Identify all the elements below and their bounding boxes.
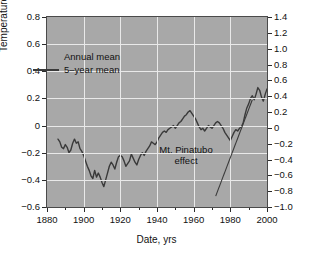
y-axis-right-tick-label: 1.0 (274, 44, 287, 54)
x-axis-tick-label: 1940 (137, 215, 177, 225)
x-tick-minor (212, 208, 213, 210)
legend-item-annual-mean: Annual mean (33, 50, 120, 63)
x-axis-tick-label: 2000 (247, 215, 287, 225)
gridline-vertical (194, 17, 195, 207)
y-tick-right (268, 17, 272, 18)
y-tick-right (268, 160, 272, 161)
y-axis-left-tick-label: 0.8 (27, 12, 40, 22)
y-axis-right-tick-label: −0.2 (274, 139, 293, 149)
x-tick-major (47, 208, 48, 212)
y-axis-left-tick-label: −0.6 (21, 202, 40, 212)
y-tick-right (268, 144, 272, 145)
plot-area (46, 16, 268, 208)
temperature-change-chart: −0.6−0.4−0.200.20.40.60.8 −1.0−0.8−0.6−0… (0, 0, 313, 257)
x-tick-minor (102, 208, 103, 210)
y-tick-right (268, 128, 272, 129)
x-tick-minor (139, 208, 140, 210)
x-axis-title: Date, yrs (0, 234, 313, 245)
gridline-vertical (230, 17, 231, 207)
y-tick-left (42, 98, 46, 99)
y-axis-right-tick-label: −0.6 (274, 170, 293, 180)
pinatubo-annotation: Mt. Pinatubo effect (146, 144, 226, 166)
y-axis-right-tick-label: 0.8 (274, 60, 287, 70)
y-axis-left-tick-label: 0.2 (27, 93, 40, 103)
pinatubo-annotation-line2: effect (146, 155, 226, 166)
y-axis-right-tick-label: 0 (274, 123, 279, 133)
x-axis-tick-label: 1980 (210, 215, 250, 225)
y-tick-right (268, 65, 272, 66)
gridline-horizontal (47, 44, 267, 45)
x-axis-tick-label: 1880 (27, 215, 67, 225)
y-tick-right (268, 175, 272, 176)
x-tick-major (84, 208, 85, 212)
y-axis-title: Temperature change, °C (0, 0, 9, 52)
y-axis-right-tick-label: 0.2 (274, 107, 287, 117)
y-tick-left (42, 180, 46, 181)
y-tick-left (42, 44, 46, 45)
legend-label-5-year-mean: 5–year mean (64, 64, 119, 75)
y-tick-left (42, 207, 46, 208)
x-tick-major (230, 208, 231, 212)
x-tick-major (267, 208, 268, 212)
y-axis-left-tick-label: 0.6 (27, 39, 40, 49)
y-tick-left (42, 126, 46, 127)
legend-swatch-5-year-mean (33, 69, 59, 71)
legend-label-annual-mean: Annual mean (64, 51, 120, 62)
x-axis-tick-label: 1920 (100, 215, 140, 225)
x-tick-major (157, 208, 158, 212)
x-axis-tick-label: 1960 (174, 215, 214, 225)
y-tick-right (268, 80, 272, 81)
gridline-vertical (84, 17, 85, 207)
y-axis-left-tick-label: 0 (35, 121, 40, 131)
gridline-horizontal (47, 180, 267, 181)
y-axis-right-tick-label: −0.4 (274, 155, 293, 165)
y-axis-right-tick-label: 1.4 (274, 12, 287, 22)
pinatubo-annotation-line1: Mt. Pinatubo (146, 144, 226, 155)
x-tick-minor (175, 208, 176, 210)
y-axis-left-tick-label: −0.4 (21, 175, 40, 185)
x-tick-minor (65, 208, 66, 210)
x-tick-minor (249, 208, 250, 210)
legend-item-5-year-mean: 5–year mean (33, 63, 120, 76)
legend-swatch-annual-mean (33, 56, 59, 58)
gridline-horizontal (47, 98, 267, 99)
y-axis-right-tick-label: −1.0 (274, 202, 293, 212)
x-tick-major (120, 208, 121, 212)
y-tick-left (42, 153, 46, 154)
gridline-horizontal (47, 126, 267, 127)
y-tick-right (268, 112, 272, 113)
x-axis-tick-label: 1900 (64, 215, 104, 225)
y-tick-right (268, 191, 272, 192)
y-axis-right-tick-label: 0.6 (274, 75, 287, 85)
y-axis-left-tick-label: −0.2 (21, 148, 40, 158)
y-axis-right-tick-label: 1.2 (274, 28, 287, 38)
y-axis-right-tick-label: 0.4 (274, 91, 287, 101)
y-tick-right (268, 96, 272, 97)
y-tick-left (42, 17, 46, 18)
gridline-vertical (120, 17, 121, 207)
y-tick-right (268, 33, 272, 34)
x-tick-major (194, 208, 195, 212)
legend: Annual mean 5–year mean (33, 50, 120, 76)
gridlines (47, 17, 267, 207)
y-tick-right (268, 207, 272, 208)
gridline-vertical (157, 17, 158, 207)
y-tick-right (268, 49, 272, 50)
y-axis-right-tick-label: −0.8 (274, 186, 293, 196)
